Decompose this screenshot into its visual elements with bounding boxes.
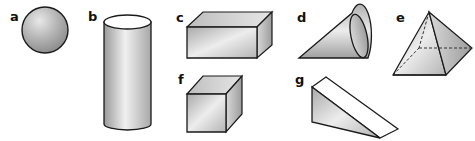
label-b: b — [88, 9, 97, 24]
shape-a-sphere: a — [10, 7, 68, 53]
label-d: d — [297, 10, 306, 25]
shape-g-triangular-prism: g — [295, 72, 398, 138]
label-g: g — [295, 72, 304, 87]
label-a: a — [10, 9, 19, 24]
shape-e-square-pyramid: e — [393, 10, 472, 75]
label-f: f — [178, 72, 184, 87]
label-e: e — [396, 10, 405, 25]
solids-diagram: a b c f d g e — [0, 0, 475, 141]
shape-c-rectangular-prism: c — [176, 10, 272, 58]
shape-b-cylinder: b — [88, 9, 151, 130]
shape-f-cube: f — [178, 72, 242, 132]
shape-d-cone: d — [297, 4, 371, 59]
label-c: c — [176, 10, 184, 25]
